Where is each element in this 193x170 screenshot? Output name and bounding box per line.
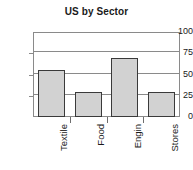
bar-chart: US by Sector 0255075100 TextileFoodEngin… [0,0,193,170]
x-axis-category-label: Engin [131,124,145,170]
x-axis-tick-mark [107,117,108,123]
x-axis-category-label: Stores [168,124,182,170]
x-axis-tick-mark [70,117,71,123]
bar [111,58,138,118]
bar [75,92,102,118]
x-axis-category-label: Textile [57,124,71,170]
x-axis-labels: TextileFoodEnginStores [33,124,180,170]
bars-group [33,32,180,117]
chart-title: US by Sector [0,6,193,17]
x-axis-category-label: Food [94,124,108,170]
x-axis-tick-mark [143,117,144,123]
bar [38,70,65,117]
bar [148,92,175,118]
